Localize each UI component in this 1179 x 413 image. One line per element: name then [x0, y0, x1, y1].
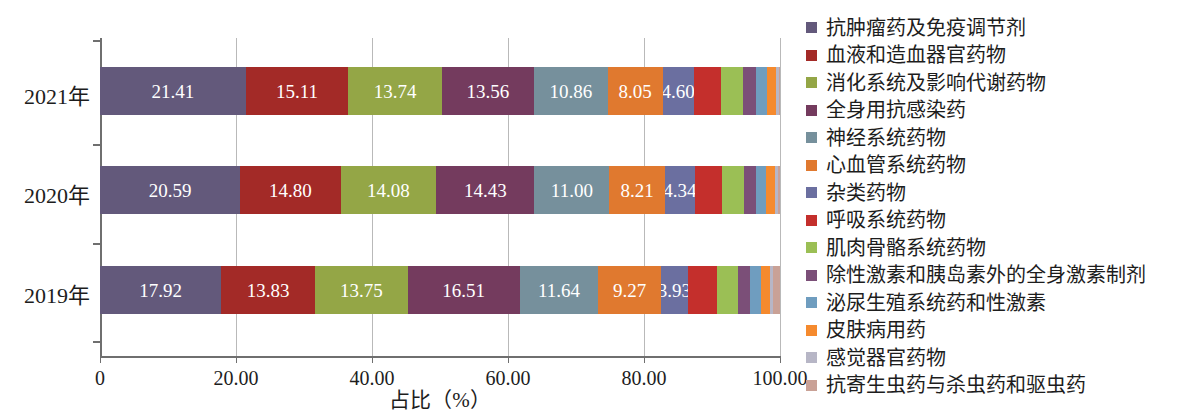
legend-swatch-icon — [806, 215, 817, 226]
legend-label: 心血管系统药物 — [826, 155, 966, 175]
legend-swatch-icon — [806, 160, 817, 171]
legend-item[interactable]: 杂类药物 — [806, 179, 1176, 207]
bar-segment-value-label: 20.59 — [149, 181, 192, 200]
bar-segment — [761, 266, 770, 314]
bar-segment-value-label: 13.56 — [466, 82, 509, 101]
y-axis-tick — [93, 144, 100, 146]
bar-row: 17.9213.8313.7516.5111.649.273.93 — [100, 266, 780, 314]
bar-segment — [744, 166, 757, 214]
legend-label: 神经系统药物 — [826, 128, 946, 148]
bar-segment — [743, 67, 756, 115]
legend-swatch-icon — [806, 77, 817, 88]
bar-segment-value-label: 17.92 — [139, 281, 182, 300]
bar-segment-value-label: 11.64 — [538, 281, 580, 300]
bar-segment — [756, 67, 767, 115]
bar-segment: 14.43 — [436, 166, 534, 214]
bar-segment-value-label: 10.86 — [549, 82, 592, 101]
legend-label: 抗肿瘤药及免疫调节剂 — [826, 18, 1026, 38]
legend-label: 肌肉骨骼系统药物 — [826, 238, 986, 258]
legend-label: 抗寄生虫药与杀虫药和驱虫药 — [826, 375, 1086, 395]
legend-item[interactable]: 抗寄生虫药与杀虫药和驱虫药 — [806, 372, 1176, 400]
bar-segment — [767, 67, 776, 115]
x-axis-title: 占比（%） — [100, 383, 780, 413]
bar-segment — [694, 67, 722, 115]
bar-segment — [766, 166, 775, 214]
x-axis-tick — [100, 356, 101, 363]
bar-segment-value-label: 13.83 — [247, 281, 290, 300]
legend-swatch-icon — [806, 50, 817, 61]
bar-segment-value-label: 4.34 — [665, 181, 695, 200]
bar-segment-value-label: 16.51 — [442, 281, 485, 300]
bar-segment — [773, 266, 779, 314]
bar-segment — [778, 166, 780, 214]
bar-segment — [750, 266, 761, 314]
bar-segment: 4.60 — [663, 67, 694, 115]
x-axis-tick — [780, 356, 781, 363]
legend-swatch-icon — [806, 242, 817, 253]
bar-segment — [688, 266, 718, 314]
bar-row: 20.5914.8014.0814.4311.008.214.34 — [100, 166, 780, 214]
legend-swatch-icon — [806, 270, 817, 281]
bar-segment: 20.59 — [100, 166, 240, 214]
bar-segment: 14.08 — [341, 166, 437, 214]
legend-item[interactable]: 呼吸系统药物 — [806, 207, 1176, 235]
x-axis-line — [100, 356, 781, 358]
legend-item[interactable]: 泌尿生殖系统药和性激素 — [806, 289, 1176, 317]
legend-swatch-icon — [806, 352, 817, 363]
legend-item[interactable]: 神经系统药物 — [806, 124, 1176, 152]
legend-swatch-icon — [806, 187, 817, 198]
legend-item[interactable]: 皮肤病用药 — [806, 317, 1176, 345]
y-axis-category-label: 2019年 — [4, 277, 90, 309]
legend-swatch-icon — [806, 22, 817, 33]
legend-label: 消化系统及影响代谢药物 — [826, 73, 1046, 93]
bar-segment — [738, 266, 750, 314]
bar-segment: 13.83 — [221, 266, 315, 314]
legend-item[interactable]: 除性激素和胰岛素外的全身激素制剂 — [806, 262, 1176, 290]
bar-segment-value-label: 8.21 — [621, 181, 654, 200]
legend-label: 泌尿生殖系统药和性激素 — [826, 293, 1046, 313]
bar-segment: 13.74 — [348, 67, 441, 115]
legend-item[interactable]: 消化系统及影响代谢药物 — [806, 69, 1176, 97]
bar-segment: 16.51 — [408, 266, 520, 314]
chart-root: 2021年2020年2019年 21.4115.1113.7413.5610.8… — [0, 0, 1179, 413]
bar-segment — [717, 266, 738, 314]
bar-segment-value-label: 8.05 — [619, 82, 652, 101]
bar-segment: 8.21 — [609, 166, 665, 214]
bar-segment — [756, 166, 766, 214]
bar-segment-value-label: 11.00 — [551, 181, 593, 200]
y-axis-category-label: 2021年 — [4, 78, 90, 110]
bar-segment-value-label: 9.27 — [613, 281, 646, 300]
bar-segment: 11.64 — [520, 266, 599, 314]
legend-label: 除性激素和胰岛素外的全身激素制剂 — [826, 265, 1146, 285]
legend-label: 呼吸系统药物 — [826, 210, 946, 230]
bar-segment: 9.27 — [598, 266, 661, 314]
bar-segment-value-label: 15.11 — [276, 82, 318, 101]
y-axis-tick — [93, 341, 100, 343]
bar-segment-value-label: 14.43 — [464, 181, 507, 200]
bar-segment: 8.05 — [608, 67, 663, 115]
legend-swatch-icon — [806, 325, 817, 336]
x-axis-tick — [236, 356, 237, 363]
x-axis-tick — [644, 356, 645, 363]
bar-segment: 17.92 — [100, 266, 221, 314]
bar-segment: 14.80 — [240, 166, 341, 214]
bar-segment-value-label: 14.08 — [367, 181, 410, 200]
plot-area: 21.4115.1113.7413.5610.868.054.6020.5914… — [100, 38, 780, 356]
bar-segment-value-label: 4.60 — [663, 82, 694, 101]
legend-item[interactable]: 血液和造血器官药物 — [806, 42, 1176, 70]
legend-item[interactable]: 全身用抗感染药 — [806, 97, 1176, 125]
x-axis-tick — [508, 356, 509, 363]
bar-segment-value-label: 3.93 — [661, 281, 688, 300]
legend-item[interactable]: 抗肿瘤药及免疫调节剂 — [806, 14, 1176, 42]
legend-item[interactable]: 感觉器官药物 — [806, 344, 1176, 372]
legend-swatch-icon — [806, 297, 817, 308]
bar-segment: 13.56 — [442, 67, 534, 115]
legend-label: 血液和造血器官药物 — [826, 45, 1006, 65]
y-axis-category-label: 2020年 — [4, 177, 90, 209]
legend-item[interactable]: 心血管系统药物 — [806, 152, 1176, 180]
legend: 抗肿瘤药及免疫调节剂血液和造血器官药物消化系统及影响代谢药物全身用抗感染药神经系… — [806, 14, 1176, 399]
legend-item[interactable]: 肌肉骨骼系统药物 — [806, 234, 1176, 262]
bar-segment — [721, 67, 743, 115]
gridline — [780, 38, 781, 356]
y-axis-tick — [93, 243, 100, 245]
